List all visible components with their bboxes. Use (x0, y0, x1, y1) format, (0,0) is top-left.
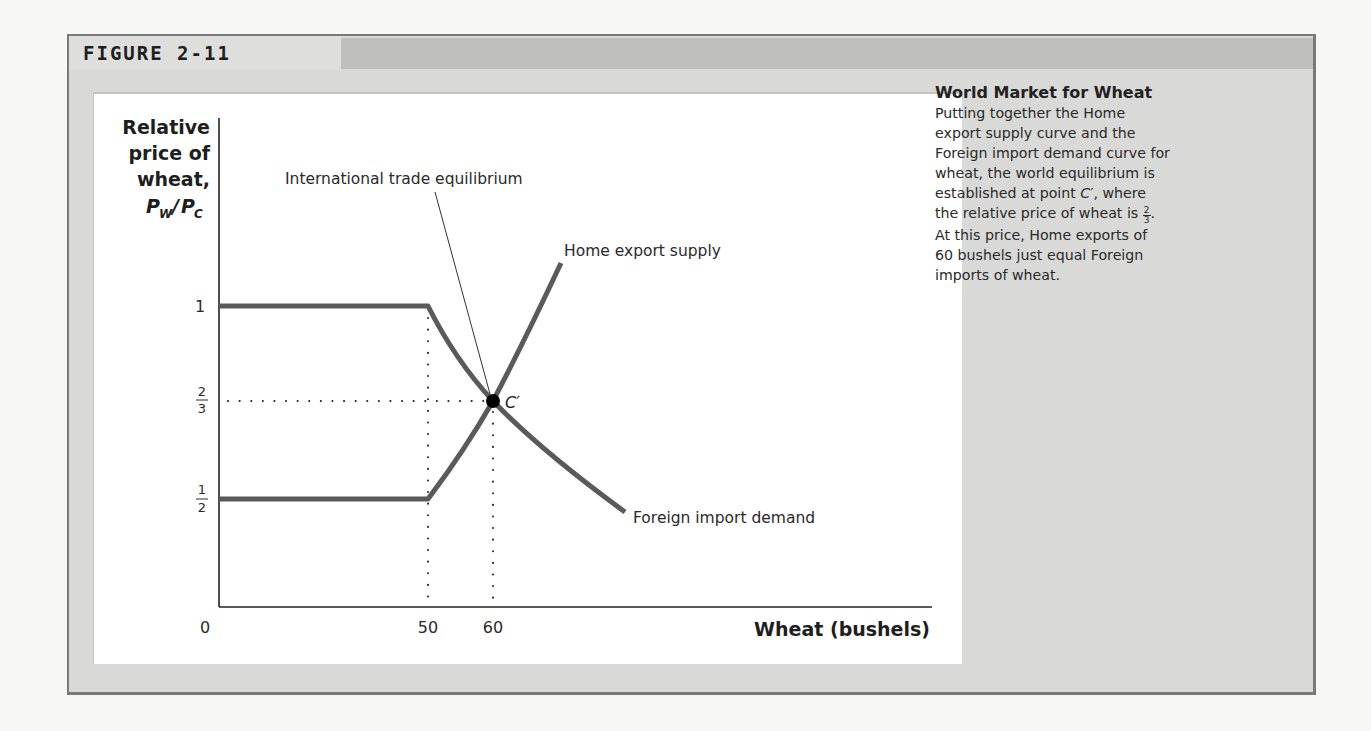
x-axis-label: Wheat (bushels) (754, 618, 930, 640)
y-tick-1: 1 (195, 297, 205, 316)
caption-line: the relative price of wheat is 23. (935, 203, 1175, 225)
y-axis-label-line-2: price of (128, 142, 210, 164)
x-tick-60: 60 (483, 618, 503, 637)
caption-fraction: 23 (1143, 206, 1151, 225)
y-axis-symbol: P W / P C (146, 195, 203, 221)
equilibrium-point (486, 394, 500, 408)
y-tick-two-thirds-den: 3 (198, 401, 206, 416)
y-axis-label-line-3: wheat, (137, 168, 210, 190)
caption-point-label: C′ (1080, 185, 1093, 201)
y-axis-label: Relative price of wheat, (122, 116, 210, 190)
y-tick-half-num: 1 (198, 482, 206, 497)
y-tick-labels: 1 2 3 1 2 (195, 297, 208, 515)
x-tick-0: 0 (200, 618, 210, 637)
x-tick-labels: 0 50 60 (200, 618, 503, 637)
caption-line: wheat, the world equilibrium is (935, 163, 1175, 183)
svg-text:W: W (159, 207, 173, 221)
svg-text:P: P (181, 195, 195, 217)
home-export-supply-curve (219, 263, 561, 499)
y-tick-half-den: 2 (198, 500, 206, 515)
y-tick-two-thirds-num: 2 (198, 384, 206, 399)
caption-line: imports of wheat. (935, 265, 1175, 285)
caption-line: established at point C′, where (935, 183, 1175, 203)
caption-line: Putting together the Home (935, 103, 1175, 123)
caption-line: At this price, Home exports of (935, 225, 1175, 245)
annotation-foreign-import-demand: Foreign import demand (633, 509, 815, 527)
y-axis-label-line-1: Relative (122, 116, 210, 138)
caption-line: 60 bushels just equal Foreign (935, 245, 1175, 265)
caption-line: Foreign import demand curve for (935, 143, 1175, 163)
caption-line: export supply curve and the (935, 123, 1175, 143)
curve-annotations: International trade equilibrium Home exp… (285, 170, 815, 527)
equilibrium-label: C′ (505, 393, 520, 412)
caption-title: World Market for Wheat (935, 83, 1175, 103)
annotation-equilibrium: International trade equilibrium (285, 170, 523, 188)
annotation-home-export-supply: Home export supply (564, 242, 721, 260)
svg-text:/: / (170, 195, 181, 217)
svg-text:P: P (146, 195, 160, 217)
figure-caption: World Market for Wheat Putting together … (935, 83, 1175, 285)
foreign-import-demand-curve (219, 306, 625, 512)
x-tick-50: 50 (418, 618, 438, 637)
svg-text:C: C (194, 207, 203, 221)
